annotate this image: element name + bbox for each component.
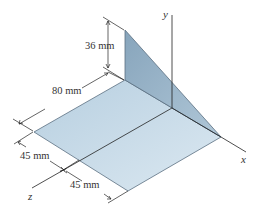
diagram-canvas: y x z 36 mm 80 mm 45 mm 45 mm [0, 0, 258, 210]
dimension-label-45-left: 45 mm [20, 150, 49, 161]
y-axis-label: y [162, 8, 168, 20]
dimension-label-80: 80 mm [52, 85, 81, 96]
dimension-label-36: 36 mm [85, 40, 114, 51]
x-axis-label: x [240, 153, 246, 165]
dimension-label-45-right: 45 mm [70, 179, 99, 190]
horizontal-plate [34, 80, 221, 191]
z-axis-label: z [27, 190, 33, 202]
x-axis-ext [221, 137, 246, 152]
